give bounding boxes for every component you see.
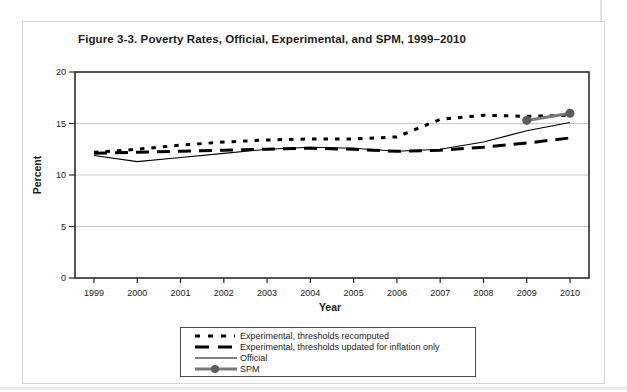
x-tick-label: 2000 <box>127 288 147 298</box>
legend-item-inflation: Experimental, thresholds updated for inf… <box>193 342 475 352</box>
marker-line-sample-icon <box>193 364 237 374</box>
x-tick-label: 2004 <box>300 288 320 298</box>
x-axis-title: Year <box>230 301 430 313</box>
x-tick-label: 2002 <box>214 288 234 298</box>
thin-line-sample-icon <box>193 353 237 363</box>
legend-label-recomputed: Experimental, thresholds recomputed <box>240 331 389 341</box>
x-tick-label: 2008 <box>473 288 493 298</box>
spm-marker <box>522 116 531 125</box>
series-line-2 <box>94 122 570 161</box>
x-tick-label: 2005 <box>344 288 364 298</box>
x-tick-label: 1999 <box>84 288 104 298</box>
x-tick-label: 2006 <box>387 288 407 298</box>
legend-item-spm: SPM <box>193 364 475 374</box>
legend-label-official: Official <box>240 353 267 363</box>
dotted-line-sample-icon <box>193 331 237 341</box>
y-tick-label: 10 <box>56 170 66 180</box>
x-tick-label: 2010 <box>560 288 580 298</box>
y-tick-label: 15 <box>56 119 66 129</box>
legend-item-recomputed: Experimental, thresholds recomputed <box>193 331 475 341</box>
legend-label-spm: SPM <box>240 364 260 374</box>
legend-label-inflation: Experimental, thresholds updated for inf… <box>240 342 440 352</box>
x-tick-label: 2001 <box>171 288 191 298</box>
y-tick-label: 5 <box>61 222 66 232</box>
y-tick-label: 0 <box>61 273 66 283</box>
legend-item-official: Official <box>193 353 475 363</box>
figure-page: Figure 3-3. Poverty Rates, Official, Exp… <box>0 0 627 392</box>
y-tick-label: 20 <box>56 67 66 77</box>
x-tick-label: 2003 <box>257 288 277 298</box>
spm-marker <box>566 109 575 118</box>
legend: Experimental, thresholds recomputed Expe… <box>180 327 476 377</box>
x-tick-label: 2007 <box>430 288 450 298</box>
dashed-line-sample-icon <box>193 342 237 352</box>
x-tick-label: 2009 <box>517 288 537 298</box>
